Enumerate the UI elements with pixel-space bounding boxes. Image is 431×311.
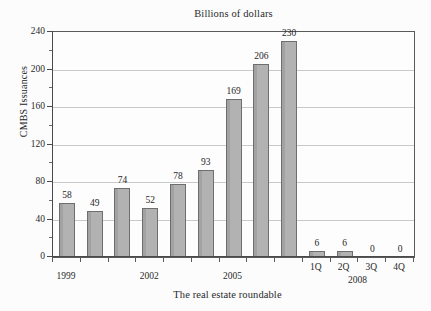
y-axis-minor-tick	[49, 200, 52, 201]
bar-value-label: 6	[314, 238, 319, 248]
y-axis-tick-label: 160	[5, 101, 45, 111]
bar-value-label: 52	[145, 195, 155, 205]
bar	[142, 208, 158, 257]
y-axis-tick-label: 80	[5, 176, 45, 186]
bar-shading	[171, 185, 174, 256]
bar-shading	[227, 100, 230, 256]
bar	[226, 99, 242, 257]
bar-shading	[199, 171, 202, 256]
y-axis-tick	[47, 144, 52, 145]
chart-caption: The real estate roundable	[0, 289, 431, 300]
y-axis-minor-tick	[49, 237, 52, 238]
x-axis-year-label: 1999	[56, 271, 75, 281]
y-axis-tick-label: 200	[5, 64, 45, 74]
chart-title-text: Billions of dollars	[194, 8, 273, 19]
y-axis-minor-tick	[49, 125, 52, 126]
y-axis-tick-label: 120	[5, 139, 45, 149]
bar-value-label: 93	[201, 157, 211, 167]
y-axis-tick	[47, 106, 52, 107]
plot-inner: 5849745278931692062306600	[53, 32, 414, 257]
gridline	[53, 70, 414, 71]
x-axis-quarter-label: 4Q	[393, 262, 405, 272]
bar-shading	[115, 189, 118, 256]
x-axis-tick	[163, 257, 164, 262]
y-axis-minor-tick	[49, 50, 52, 51]
x-axis-tick	[413, 257, 414, 262]
bar-value-label: 169	[226, 86, 240, 96]
x-axis-tick	[385, 257, 386, 262]
x-axis-tick	[246, 257, 247, 262]
bar-shading	[282, 42, 285, 256]
bar-value-label: 206	[254, 51, 268, 61]
x-axis-quarter-label: 2Q	[338, 262, 350, 272]
y-axis-tick	[47, 219, 52, 220]
chart-page: Billions of dollars CMBS Issuances 04080…	[0, 0, 431, 311]
y-axis-tick-label: 0	[5, 251, 45, 261]
bar-value-label: 0	[398, 244, 403, 254]
x-axis-tick	[357, 257, 358, 262]
bar	[87, 211, 103, 257]
bar-value-label: 78	[173, 171, 183, 181]
bar-shading	[60, 204, 63, 256]
x-axis-tick	[219, 257, 220, 262]
y-axis-tick	[47, 69, 52, 70]
x-axis-quarter-label: 3Q	[366, 262, 378, 272]
chart-caption-text: The real estate roundable	[173, 289, 281, 300]
x-axis-tick	[135, 257, 136, 262]
x-axis-line	[52, 256, 414, 257]
x-axis-group-label-2008: 2008	[348, 275, 367, 285]
bar-shading	[254, 65, 257, 256]
x-axis-tick	[302, 257, 303, 262]
x-axis-tick	[191, 257, 192, 262]
bar	[253, 64, 269, 257]
x-axis-tick	[330, 257, 331, 262]
y-axis-tick	[47, 31, 52, 32]
bar-value-label: 230	[282, 28, 296, 38]
x-axis-year-label: 2005	[223, 271, 242, 281]
plot-area: 5849745278931692062306600	[52, 31, 415, 258]
chart-title: Billions of dollars	[0, 8, 431, 19]
y-axis-tick-label: 40	[5, 214, 45, 224]
bar-value-label: 74	[118, 175, 128, 185]
bar-value-label: 6	[342, 238, 347, 248]
bar-shading	[88, 212, 91, 256]
bar-shading	[143, 209, 146, 256]
x-axis-tick	[274, 257, 275, 262]
y-axis-tick-labels: 04080120160200240	[0, 0, 45, 311]
x-axis-year-label: 2002	[140, 271, 159, 281]
y-axis-tick	[47, 181, 52, 182]
bar-value-label: 58	[62, 190, 72, 200]
y-axis-minor-tick	[49, 87, 52, 88]
y-axis-line	[52, 31, 53, 257]
bar	[170, 184, 186, 257]
bar-value-label: 49	[90, 198, 100, 208]
bar	[281, 41, 297, 257]
bar	[198, 170, 214, 257]
x-axis-tick	[108, 257, 109, 262]
bar	[59, 203, 75, 257]
y-axis-minor-tick	[49, 162, 52, 163]
x-axis-tick	[80, 257, 81, 262]
x-axis-quarter-label: 1Q	[310, 262, 322, 272]
y-axis-tick-label: 240	[5, 26, 45, 36]
bar	[114, 188, 130, 257]
bar-value-label: 0	[370, 244, 375, 254]
x-axis-tick	[52, 257, 53, 262]
